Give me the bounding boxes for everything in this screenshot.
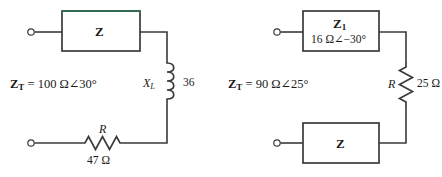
left-inductor-symbol [167, 63, 174, 99]
circuit-diagram-figure: Z ZT = 100 Ω∠30° XL 36 R 47 Ω Z1 16 Ω∠−3… [0, 0, 442, 177]
left-zt-subscript: T [18, 82, 24, 92]
left-top-terminal-icon [28, 29, 34, 35]
right-total-impedance-label: ZT = 90 Ω∠25° [228, 78, 309, 92]
left-inductor-symbol-label: XL [143, 77, 155, 90]
right-zt-value: 90 Ω∠25° [256, 77, 309, 91]
left-zt-equals: = [27, 77, 34, 91]
right-known-box-label: Z1 [333, 17, 346, 32]
right-unknown-box-label: Z [336, 137, 345, 150]
right-top-right-wire [379, 32, 406, 62]
left-resistor-value-label: 47 Ω [87, 155, 110, 167]
right-resistor-symbol-label: R [388, 78, 395, 90]
right-bottom-right-wire [379, 107, 406, 143]
right-known-box-subscript: 1 [342, 22, 347, 32]
right-known-box-value: 16 Ω∠−30° [311, 34, 366, 46]
left-resistor-symbol-label: R [99, 123, 106, 135]
left-top-right-wire [140, 32, 167, 63]
left-bottom-terminal-icon [28, 140, 34, 146]
right-bottom-terminal-icon [274, 140, 280, 146]
left-total-impedance-label: ZT = 100 Ω∠30° [10, 78, 97, 92]
right-top-terminal-icon [274, 29, 280, 35]
right-known-box-symbol: Z [333, 16, 342, 31]
right-zt-equals: = [245, 77, 252, 91]
right-zt-subscript: T [236, 82, 242, 92]
left-inductor-value-label: 36 [183, 77, 195, 89]
right-resistor-symbol [400, 62, 413, 107]
left-bottom-right-wire [126, 99, 167, 143]
left-resistor-symbol [80, 137, 126, 150]
right-resistor-value-label: 25 Ω [417, 78, 440, 90]
left-zt-value: 100 Ω∠30° [38, 77, 97, 91]
left-unknown-box-label: Z [95, 25, 104, 38]
left-inductor-subscript: L [150, 81, 155, 91]
